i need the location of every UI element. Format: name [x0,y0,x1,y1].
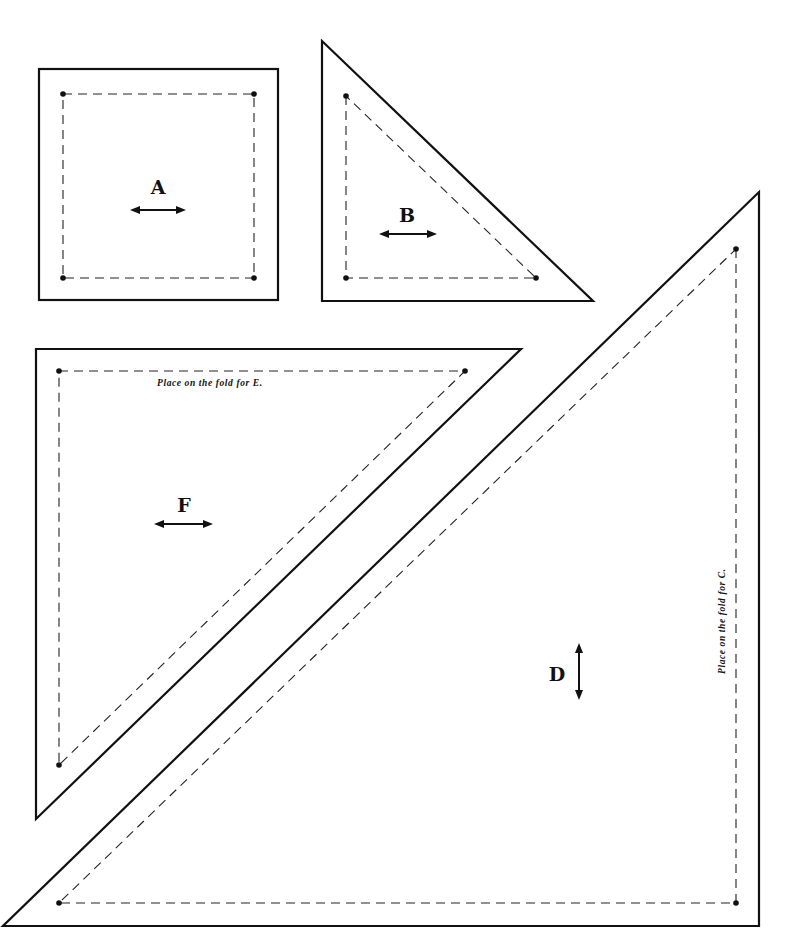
piece-f-seam-line [59,371,465,765]
corner-dot [462,368,468,374]
grainline-arrow-icon [575,643,583,700]
piece-b: B [322,41,593,301]
piece-a-label: A [150,176,166,198]
quilt-pattern-sheet: A B Place on the fold for E. F [0,0,790,943]
piece-f: Place on the fold for E. F [36,349,521,819]
corner-dot [343,93,349,99]
grainline-arrow-icon [379,230,437,238]
piece-d-label: D [549,663,565,685]
piece-b-label: B [399,204,415,226]
corner-dot [56,762,62,768]
corner-dot [733,900,739,906]
corner-dot [60,91,66,97]
corner-dot [56,900,62,906]
piece-b-seam-line [346,96,536,278]
fold-note-c: Place on the fold for C. [717,568,727,674]
piece-f-label: F [177,494,191,516]
piece-f-cut-line [36,349,521,819]
fold-note-e: Place on the fold for E. [157,378,263,388]
grainline-arrow-icon [154,520,213,528]
corner-dot [60,275,66,281]
piece-b-cut-line [322,41,593,301]
corner-dot [251,275,257,281]
corner-dot [56,368,62,374]
corner-dot [533,275,539,281]
piece-a: A [39,69,278,300]
corner-dot [343,275,349,281]
corner-dot [733,246,739,252]
piece-d-seam-line [59,249,736,903]
corner-dot [251,91,257,97]
grainline-arrow-icon [130,206,186,214]
